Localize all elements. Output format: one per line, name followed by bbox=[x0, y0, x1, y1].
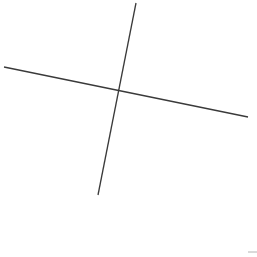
drawing-canvas bbox=[0, 0, 257, 257]
line-figure bbox=[0, 0, 257, 257]
